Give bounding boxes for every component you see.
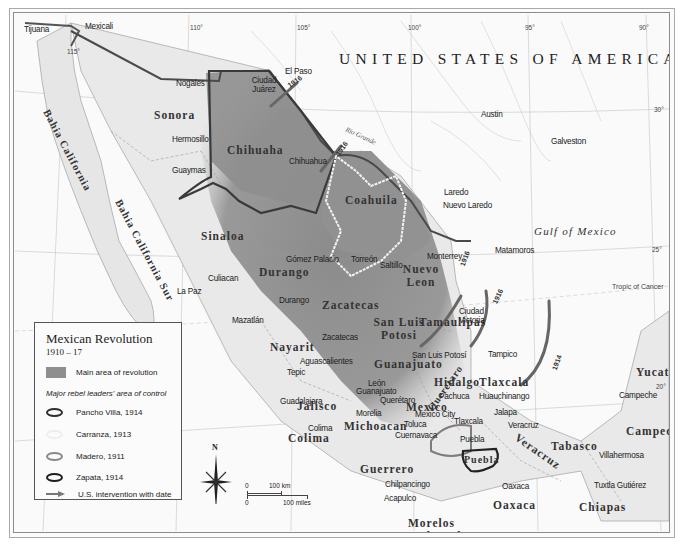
- lat-25: 25°: [652, 247, 662, 254]
- city-tepic: Tepic: [287, 369, 305, 377]
- state-colima: Colima: [288, 433, 330, 445]
- city-tampico: Tampico: [488, 351, 517, 359]
- city-la-paz: La Paz: [177, 288, 201, 296]
- lat-30: 30°: [654, 107, 664, 114]
- legend-intervention: U.S. intervention with date: [46, 489, 66, 499]
- city-veracruz: Veracruz: [508, 422, 539, 430]
- city-austin: Austin: [481, 111, 503, 119]
- ring-icon-zapata: [46, 473, 63, 482]
- state-sonora: Sonora: [154, 110, 195, 122]
- state-chiapas: Chiapas: [579, 502, 626, 514]
- city-chilpancingo: Chilpancingo: [385, 481, 430, 489]
- compass-rose: N: [198, 444, 234, 504]
- state-guanajuato: Guanajuato: [374, 359, 443, 371]
- city-aguascalientes: Aguascalientes: [300, 358, 353, 366]
- lon-105: 105°: [297, 25, 310, 32]
- city-mazatlan: Mazatlán: [232, 317, 264, 325]
- arrow-icon: [46, 490, 66, 498]
- state-oaxaca: Oaxaca: [493, 500, 536, 512]
- city-acapulco: Acapulco: [384, 495, 416, 503]
- scale-bar: 0 100 km 0 100 miles: [245, 483, 330, 513]
- city-galveston: Galveston: [551, 138, 586, 146]
- lon-115: 115°: [67, 49, 80, 56]
- city-cuernavaca: Cuernavaca: [395, 432, 437, 440]
- city-mexicali: Mexicali: [85, 23, 113, 31]
- state-campeche: Campeche: [626, 426, 670, 438]
- city-queretaro: Querétaro: [380, 397, 415, 405]
- revolution-area-swatch: [46, 367, 66, 378]
- city-gomez-palacio: Gómez Palacio: [286, 256, 339, 264]
- ring-icon-carranza: [46, 430, 63, 439]
- legend-main-area: Main area of revolution: [46, 365, 66, 379]
- city-tlaxcala: Tlaxcala: [454, 418, 483, 426]
- city-tuxtla-gutierez: Tuxtla Gutiérez: [594, 482, 646, 490]
- state-chihuahua: Chihuaha: [227, 145, 284, 157]
- lon-90: 90°: [639, 25, 649, 32]
- legend-leaders-heading: Major rebel leaders' area of control: [46, 389, 166, 398]
- city-monterrey: Monterrey: [427, 253, 462, 261]
- lat-20: 20°: [656, 384, 666, 391]
- city-puebla: Puebla: [460, 436, 484, 444]
- city-culiacan: Culiacan: [208, 275, 238, 283]
- scale-zero-mi: 0: [245, 500, 249, 507]
- city-tijuana: Tijuana: [24, 26, 49, 34]
- city-campeche: Campeche: [619, 392, 657, 400]
- city-guadalajara: Guadalajara: [280, 398, 322, 406]
- city-ciudad-juarez: Ciudad Juárez: [249, 76, 279, 94]
- city-morelia: Morelia: [356, 410, 381, 418]
- city-chihuahua: Chihuahua: [289, 158, 327, 166]
- city-villahermosa: Villahermosa: [599, 452, 644, 460]
- city-oaxaca: Oaxaca: [502, 483, 529, 491]
- state-nayarit: Nayarit: [270, 342, 315, 354]
- city-toluca: Toluca: [404, 421, 426, 429]
- legend-subtitle: 1910 – 17: [46, 347, 82, 357]
- city-zacatecas: Zacatecas: [322, 334, 358, 342]
- city-hermosillo: Hermosillo: [172, 136, 209, 144]
- state-sinaloa: Sinaloa: [201, 231, 244, 243]
- state-tlaxcala-north: Tlaxcala: [479, 377, 529, 389]
- state-coahuila: Coahuila: [345, 195, 398, 207]
- legend-item-zapata: Zapata, 1914: [46, 470, 63, 484]
- scale-100km: 100 km: [269, 483, 290, 490]
- state-yucatan: Yucatan: [636, 367, 670, 379]
- city-nuevo-laredo: Nuevo Laredo: [443, 202, 492, 210]
- lon-95: 95°: [525, 25, 535, 32]
- city-san-luis-potosi: San Luis Potosí: [412, 352, 466, 360]
- city-colima: Colima: [308, 425, 332, 433]
- compass-icon: [198, 444, 234, 504]
- state-guerrero: Guerrero: [360, 464, 414, 476]
- state-zacatecas: Zacatecas: [322, 300, 380, 312]
- legend-item-carranza: Carranza, 1913: [46, 427, 63, 441]
- city-matamoros: Matamoros: [495, 247, 534, 255]
- state-morelos: Morelos: [408, 518, 455, 530]
- legend-item-madero: Madero, 1911: [46, 449, 63, 463]
- state-tabasco: Tabasco: [551, 441, 598, 453]
- tropic-of-cancer-label: Tropic of Cancer: [612, 283, 663, 290]
- state-nuevo-leon: Nuevo Leon: [401, 263, 441, 289]
- country-label-usa: UNITED STATES OF AMERICA: [339, 51, 670, 67]
- state-hidalgo: Hidalgo: [434, 377, 480, 389]
- ring-icon-madero: [46, 452, 63, 461]
- city-ciudad-victoria: Ciudad Victoria: [459, 307, 493, 325]
- city-huauchinango: Huauchinango: [479, 393, 529, 401]
- city-pachuca: Pachuca: [439, 393, 469, 401]
- sea-gulf-of-mexico: Gulf of Mexico: [534, 226, 617, 237]
- legend-title: Mexican Revolution: [46, 331, 153, 347]
- city-jalapa: Jalapa: [494, 409, 517, 417]
- state-puebla: Puebla: [464, 455, 499, 465]
- legend-item-villa: Pancho Villa, 1914: [46, 405, 63, 419]
- lon-110: 110°: [190, 25, 203, 32]
- scale-100miles: 100 miles: [283, 500, 311, 507]
- city-torreon: Torreón: [351, 256, 377, 264]
- city-guanajuato: Guanajuato: [356, 388, 396, 396]
- lon-100: 100°: [408, 25, 421, 32]
- ring-icon-villa: [46, 408, 63, 417]
- city-saltillo: Saltillo: [380, 262, 403, 270]
- state-durango: Durango: [259, 267, 309, 279]
- city-mexico-city: Mexico City: [415, 411, 455, 419]
- scale-zero-km: 0: [245, 483, 249, 490]
- legend: Mexican Revolution 1910 – 17 Main area o…: [34, 322, 182, 500]
- city-nogales: Nogales: [176, 80, 205, 88]
- state-tlaxcala-south: Tlaxcala: [418, 531, 468, 533]
- city-guaymas: Guaymas: [172, 167, 206, 175]
